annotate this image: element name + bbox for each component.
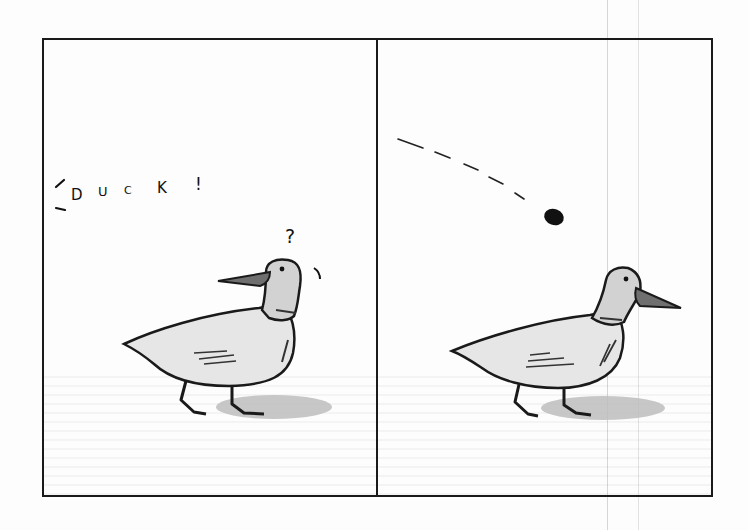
caption-letter-u: U: [98, 184, 108, 199]
caption-letter-exclaim: !: [195, 174, 202, 194]
panel-1: D U C K ! ?: [44, 40, 378, 495]
duck-eye: [624, 277, 629, 282]
duck-beak: [635, 288, 681, 308]
duck-2: [452, 268, 681, 421]
panel-1-art: D U C K ! ?: [44, 40, 376, 495]
comic-strip-frame: D U C K ! ?: [42, 38, 713, 497]
ground-shadow: [541, 396, 665, 420]
shout-marks: [56, 180, 65, 210]
caption-letter-k: K: [157, 179, 168, 197]
panel-2: [378, 40, 711, 495]
panel-2-art: [378, 40, 711, 495]
duck-eye: [280, 267, 285, 272]
stone: [542, 206, 566, 228]
motion-mark: [314, 268, 320, 279]
duck-1: [124, 260, 332, 420]
stone-trajectory: [398, 139, 524, 199]
caption-letter-d: D: [71, 186, 83, 204]
duck-beak: [218, 272, 270, 286]
question-mark: ?: [285, 225, 295, 247]
caption-letter-c: C: [124, 184, 132, 197]
duck-head: [592, 268, 641, 325]
caption-duck: D U C K !: [71, 174, 202, 204]
comic-page: D U C K ! ?: [0, 0, 749, 530]
